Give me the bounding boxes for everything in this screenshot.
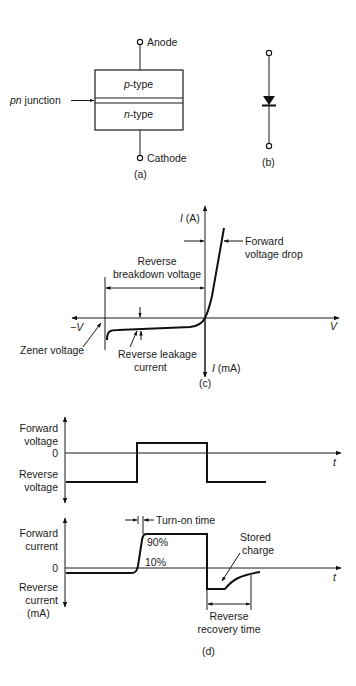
leakage-pointer-arrow-icon bbox=[130, 331, 137, 347]
diode-cathode-terminal-icon bbox=[266, 143, 271, 148]
ten-percent-label: 10% bbox=[145, 556, 166, 568]
stored-charge-label-line1: Stored bbox=[240, 531, 271, 543]
zener-pointer-arrow-icon bbox=[83, 323, 101, 347]
breakdown-label-line1: Reverse bbox=[137, 255, 176, 267]
turn-on-time-label: Turn-on time bbox=[156, 514, 215, 526]
anode-terminal-icon bbox=[137, 39, 142, 44]
pn-junction-label: pn junction bbox=[9, 94, 61, 106]
stored-charge-pointer-arrow-icon bbox=[222, 553, 240, 581]
panel-b-caption: (b) bbox=[262, 156, 275, 168]
anode-label: Anode bbox=[147, 36, 178, 48]
leakage-label-line2: current bbox=[134, 361, 167, 373]
current-milliamps-label: I (mA) bbox=[212, 362, 241, 374]
current-amps-label: I (A) bbox=[180, 212, 200, 224]
n-type-label: n-type bbox=[124, 108, 153, 120]
current-zero-label: 0 bbox=[52, 562, 58, 574]
forward-current-label-line2: current bbox=[25, 540, 58, 552]
panel-c-iv-characteristic: I (A) I (mA) V −V Forward voltage drop R… bbox=[20, 206, 339, 389]
voltage-negative-label: −V bbox=[70, 321, 84, 333]
ninety-percent-label: 90% bbox=[147, 536, 168, 548]
forward-voltage-label-line1: Forward bbox=[19, 422, 58, 434]
current-time-label: t bbox=[333, 571, 337, 583]
stored-charge-label-line2: charge bbox=[242, 544, 274, 556]
reverse-current-label-line3: (mA) bbox=[27, 607, 50, 619]
reverse-voltage-label-line1: Reverse bbox=[19, 468, 58, 480]
p-type-label: p-type bbox=[123, 78, 153, 90]
panel-c-caption: (c) bbox=[199, 377, 211, 389]
reverse-current-label-line2: current bbox=[25, 594, 58, 606]
panel-d-voltage-waveform: Forward voltage 0 Reverse voltage t bbox=[19, 417, 341, 503]
panel-a-pn-structure: Anode p-type n-type pn junction Cathode … bbox=[9, 36, 187, 180]
panel-b-diode-symbol: (b) bbox=[262, 50, 276, 168]
reverse-current-label-line1: Reverse bbox=[19, 581, 58, 593]
voltage-zero-label: 0 bbox=[52, 447, 58, 459]
cathode-label: Cathode bbox=[147, 152, 187, 164]
forward-drop-label-line2: voltage drop bbox=[245, 248, 303, 260]
diode-figure: Anode p-type n-type pn junction Cathode … bbox=[0, 0, 356, 686]
reverse-voltage-label-line2: voltage bbox=[24, 481, 58, 493]
diode-anode-terminal-icon bbox=[266, 50, 271, 55]
forward-drop-label-line1: Forward bbox=[245, 235, 284, 247]
panel-a-caption: (a) bbox=[134, 168, 147, 180]
diode-triangle-icon bbox=[263, 96, 275, 105]
zener-voltage-label: Zener voltage bbox=[20, 344, 84, 356]
recovery-label-line1: Reverse bbox=[209, 610, 248, 622]
voltage-time-label: t bbox=[333, 456, 337, 468]
voltage-waveform bbox=[66, 443, 266, 482]
panel-d-current-waveform: Turn-on time 90% 10% Forward current 0 R… bbox=[19, 514, 341, 657]
recovery-label-line2: recovery time bbox=[197, 623, 260, 635]
forward-current-label-line1: Forward bbox=[19, 527, 58, 539]
iv-curve bbox=[107, 228, 224, 340]
voltage-positive-label: V bbox=[330, 320, 338, 332]
panel-d-caption: (d) bbox=[202, 645, 215, 657]
cathode-terminal-icon bbox=[137, 155, 142, 160]
breakdown-label-line2: breakdown voltage bbox=[113, 268, 201, 280]
forward-voltage-label-line2: voltage bbox=[24, 435, 58, 447]
leakage-label-line1: Reverse leakage bbox=[118, 348, 197, 360]
